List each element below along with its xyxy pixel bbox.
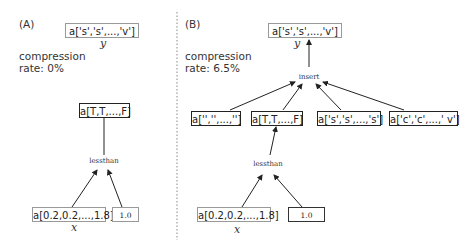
edge-in2-to-insert: [283, 84, 302, 110]
input-var: x: [71, 221, 77, 234]
input-node: a[0.2,0.2,...,1.8]: [197, 207, 271, 222]
panel-label: (B): [185, 18, 200, 31]
insert-input-1: a['','',...,'']: [191, 111, 241, 126]
output-var: y: [294, 37, 300, 50]
output-node: a['s','s',...,'v']: [65, 23, 139, 38]
insert-input-2: a[T,T,...,F]: [251, 111, 303, 126]
insert-op: insert: [299, 73, 320, 81]
edge-lessthan-to-result: [270, 127, 276, 155]
output-node: a['s','s',...,'v']: [268, 23, 342, 38]
lessthan-op: lessthan: [253, 160, 283, 168]
const-node: 1.0: [112, 207, 139, 222]
result-node: a[T,T,...,F]: [79, 103, 130, 118]
input-node: a[0.2,0.2,...,1.8]: [32, 207, 106, 222]
compression-rate: rate: 0%: [19, 62, 64, 75]
edge-in1-to-insert: [230, 82, 295, 110]
edge-input-to-lessthan: [72, 170, 97, 207]
input-var: x: [234, 223, 240, 236]
output-var: y: [100, 37, 106, 50]
const-node: 1.0: [288, 207, 325, 222]
insert-input-4: a['c','c',...,' v']: [389, 111, 458, 126]
edge-in3-to-insert: [316, 84, 341, 110]
edge-input-to-lessthan-b: [242, 175, 262, 207]
panel-label: (A): [19, 18, 34, 31]
edge-const-to-lessthan-b: [274, 175, 302, 207]
insert-input-3: a['s','s',...,'s']: [317, 111, 381, 126]
compression-rate: rate: 6.5%: [185, 62, 240, 75]
lessthan-op: lessthan: [89, 157, 119, 165]
edge-const-to-lessthan: [108, 170, 122, 207]
edge-in4-to-insert: [323, 82, 404, 110]
